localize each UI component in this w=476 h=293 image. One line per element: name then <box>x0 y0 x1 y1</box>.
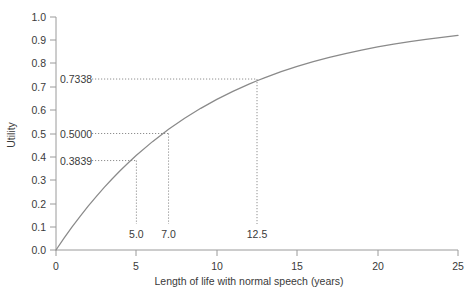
x-tick-label-5: 5 <box>133 260 139 272</box>
y-tick-label-0.8: 0.8 <box>31 57 46 69</box>
y-tick-label-0.1: 0.1 <box>31 221 46 233</box>
y-tick-label-0.4: 0.4 <box>31 151 46 163</box>
x-tick-label-15: 15 <box>291 260 303 272</box>
value-label-0.7338: 0.7338 <box>60 73 92 85</box>
x-tick-label-25: 25 <box>452 260 464 272</box>
y-tick-label-1.0: 1.0 <box>31 11 46 23</box>
y-axis-title: Utility <box>5 121 17 147</box>
chart-container: 1.0 0.9 0.8 0.7 0.6 0.5 0.4 0.3 0.2 0.1 … <box>0 0 476 293</box>
x-axis-title: Length of life with normal speech (years… <box>154 275 343 287</box>
y-tick-label-0.2: 0.2 <box>31 198 46 210</box>
value-label-7.0: 7.0 <box>161 228 176 240</box>
y-tick-label-0.5: 0.5 <box>31 128 46 140</box>
y-tick-label-0.3: 0.3 <box>31 174 46 186</box>
y-tick-label-0.9: 0.9 <box>31 34 46 46</box>
value-label-5.0: 5.0 <box>129 228 144 240</box>
y-tick-label-0.0: 0.0 <box>31 244 46 256</box>
x-tick-label-10: 10 <box>211 260 223 272</box>
chart-background <box>0 0 476 293</box>
x-tick-label-0: 0 <box>53 260 59 272</box>
y-tick-label-0.7: 0.7 <box>31 81 46 93</box>
x-tick-label-20: 20 <box>372 260 384 272</box>
value-label-12.5: 12.5 <box>247 228 268 240</box>
value-label-0.3839: 0.3839 <box>60 155 92 167</box>
utility-curve-chart: 1.0 0.9 0.8 0.7 0.6 0.5 0.4 0.3 0.2 0.1 … <box>0 0 476 293</box>
y-tick-label-0.6: 0.6 <box>31 104 46 116</box>
value-label-0.5000: 0.5000 <box>60 128 92 140</box>
